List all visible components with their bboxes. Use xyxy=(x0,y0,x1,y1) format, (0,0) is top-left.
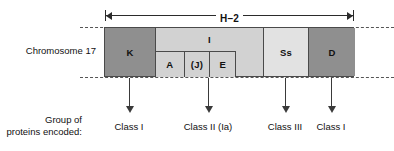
h2-span-bracket: H–2 xyxy=(105,8,354,23)
class-label-4: Class I xyxy=(316,121,345,133)
subregion-A: A xyxy=(156,52,184,77)
h2-span-label: H–2 xyxy=(216,12,243,26)
arrowhead-down-icon xyxy=(282,106,290,113)
region-K-label: K xyxy=(126,47,133,58)
subregion-E: E xyxy=(209,52,235,77)
region-D-label: D xyxy=(328,47,335,58)
class-label-1: Class I xyxy=(114,121,143,133)
group-caption: Group of proteins encoded: xyxy=(6,114,82,138)
group-caption-line-2: proteins encoded: xyxy=(6,126,82,138)
pointer-stem xyxy=(285,78,286,108)
region-I: I A (J) E xyxy=(156,28,264,76)
subregion-A-label: A xyxy=(166,59,173,70)
region-Ss-label: Ss xyxy=(280,47,292,58)
chromosome-bar: K I A (J) E Ss D xyxy=(104,27,354,77)
pointer-stem xyxy=(331,78,332,108)
region-I-label: I xyxy=(208,34,211,45)
arrowhead-down-icon xyxy=(205,106,213,113)
subregion-E-label: E xyxy=(219,59,226,70)
guide-line-bottom xyxy=(80,77,394,78)
region-K: K xyxy=(105,28,156,76)
arrowhead-down-icon xyxy=(328,106,336,113)
subregion-J-label: (J) xyxy=(191,59,203,70)
region-I-label-wrap: I xyxy=(156,28,263,51)
region-D: D xyxy=(309,28,355,76)
class-label-3: Class III xyxy=(268,121,302,133)
h2-span-label-wrap: H–2 xyxy=(105,8,354,26)
chromosome-label: Chromosome 17 xyxy=(26,45,96,57)
h2-complex-figure: H–2 Chromosome 17 K I A (J) E xyxy=(0,0,394,151)
pointer-stem xyxy=(208,78,209,108)
subregion-J: (J) xyxy=(184,52,210,77)
region-Ss: Ss xyxy=(264,28,309,76)
class-label-2: Class II (Ia) xyxy=(184,121,233,133)
pointer-stem xyxy=(129,78,130,108)
region-I-subloci-row: A (J) E xyxy=(156,51,236,77)
group-caption-line-1: Group of xyxy=(6,114,82,126)
arrowhead-down-icon xyxy=(126,106,134,113)
